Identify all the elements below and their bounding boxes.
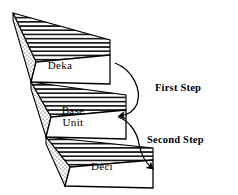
step-wedge-deci bbox=[46, 137, 153, 188]
metric-staircase-figure: Deka BaseUnit Deci First Step Second Ste… bbox=[0, 0, 238, 195]
step-wedge-deka bbox=[13, 13, 110, 84]
staircase-illustration bbox=[0, 0, 238, 195]
step-wedge-base-unit bbox=[31, 82, 126, 139]
